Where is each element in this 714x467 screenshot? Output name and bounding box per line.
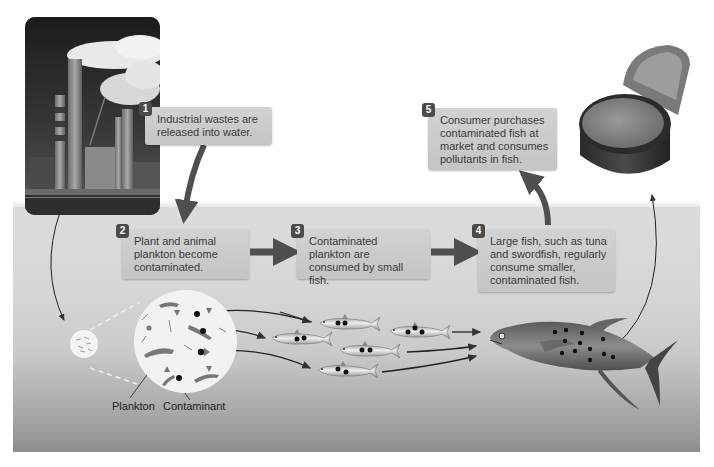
step-4-text: Large fish, such as tuna and swordfish, …	[490, 235, 607, 287]
step-4-box: 4 Large fish, such as tuna and swordfish…	[478, 229, 615, 292]
small-fish	[318, 361, 378, 378]
step-5-badge: 5	[422, 103, 435, 117]
step-3-text: Contaminated plankton are consumed by sm…	[309, 235, 422, 287]
step-2-box: 2 Plant and animal plankton become conta…	[122, 229, 249, 279]
step-2-text: Plant and animal plankton become contami…	[134, 235, 241, 274]
small-fish	[340, 341, 400, 358]
step-5-text: Consumer purchases contaminated fish at …	[440, 114, 549, 166]
arrow-4-to-5	[528, 178, 548, 225]
step-2-badge: 2	[116, 224, 129, 238]
plankton-label: Plankton	[112, 400, 155, 412]
plankton-icon	[134, 290, 237, 393]
step-4-badge: 4	[472, 224, 485, 238]
contaminant-label: Contaminant	[163, 400, 225, 412]
plankton-sample-dot	[70, 330, 98, 358]
step-1-box: 1 Industrial wastes are released into wa…	[145, 107, 272, 145]
step-5-box: 5 Consumer purchases contaminated fish a…	[428, 108, 557, 170]
step-3-badge: 3	[291, 224, 304, 238]
contaminant-dots	[176, 311, 206, 381]
small-fish	[272, 329, 332, 346]
tuna-fish	[480, 318, 685, 418]
small-fish	[320, 314, 380, 331]
step-3-box: 3 Contaminated plankton are consumed by …	[297, 229, 430, 279]
step-1-text: Industrial wastes are released into wate…	[157, 113, 264, 139]
small-fish-school	[260, 305, 460, 390]
arrow-factory-to-plankton	[51, 212, 64, 320]
magnified-plankton-circle	[134, 290, 237, 393]
arrow-1-to-2	[185, 145, 204, 212]
small-fish	[390, 322, 450, 339]
step-1-badge: 1	[139, 102, 152, 116]
